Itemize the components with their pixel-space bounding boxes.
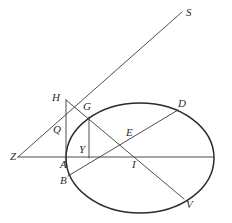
segment-z-s <box>18 12 182 157</box>
point-label-i: I <box>131 158 137 170</box>
point-label-d: D <box>177 97 186 109</box>
geometry-figure: S H G D Q E Z Y A I B V <box>0 0 232 223</box>
point-label-y: Y <box>79 143 87 155</box>
point-label-b: B <box>60 174 67 186</box>
ellipse-curve <box>66 103 214 213</box>
point-label-z: Z <box>10 150 17 162</box>
point-label-a: A <box>59 158 67 170</box>
point-label-g: G <box>83 100 91 112</box>
point-label-s: S <box>186 6 192 18</box>
point-label-q: Q <box>53 123 61 135</box>
point-label-e: E <box>125 126 133 138</box>
point-label-h: H <box>51 91 61 103</box>
point-label-v: V <box>186 198 194 210</box>
